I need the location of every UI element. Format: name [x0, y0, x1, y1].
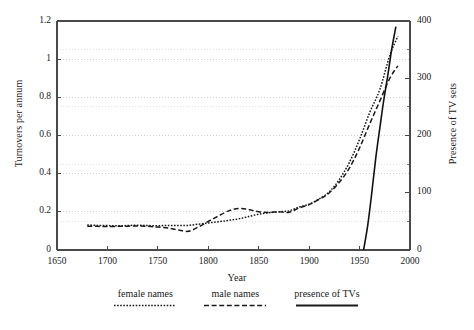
- x-axis-tick-label: 2000: [390, 256, 430, 266]
- x-axis-tick-label: 1900: [289, 256, 329, 266]
- legend-item-female-names[interactable]: female names: [114, 288, 176, 308]
- y-axis-right-tick-label: 0: [417, 244, 447, 254]
- x-axis-tick-label: 1650: [37, 256, 77, 266]
- y-axis-left-tick-label: 1: [25, 53, 51, 63]
- x-axis-title: Year: [0, 272, 474, 283]
- x-axis-tick-label: 1750: [138, 256, 178, 266]
- y-axis-left-title: Turnovers per annum: [13, 54, 24, 194]
- legend-swatch-solid-icon: [296, 303, 358, 308]
- y-axis-left-tick-label: 0.8: [25, 91, 51, 101]
- legend-item-male-names[interactable]: male names: [204, 288, 266, 308]
- y-axis-left-tick-label: 1.2: [25, 15, 51, 25]
- y-axis-left-tick-label: 0.4: [25, 167, 51, 177]
- chart-container: Turnovers per annum Presence of TV sets …: [0, 0, 474, 330]
- y-axis-right-tick-label: 100: [417, 186, 447, 196]
- series-line-male-names: [87, 66, 398, 232]
- x-axis-tick-label: 1950: [340, 256, 380, 266]
- gridlines: [57, 21, 410, 221]
- x-axis-tick-label: 1850: [239, 256, 279, 266]
- y-axis-left-tick-label: 0.2: [25, 205, 51, 215]
- series-line-presence-of-tvs: [364, 27, 396, 250]
- chart-legend: female namesmale namespresence of TVs: [0, 288, 474, 308]
- legend-swatch-dashed-icon: [204, 303, 266, 308]
- y-axis-left-tick-label: 0.6: [25, 129, 51, 139]
- y-axis-right-title: Presence of TV sets: [447, 54, 458, 194]
- x-axis-tick-label: 1800: [188, 256, 228, 266]
- legend-label: male names: [212, 288, 259, 299]
- y-axis-left-tick-label: 0: [25, 244, 51, 254]
- legend-label: presence of TVs: [294, 288, 359, 299]
- y-axis-right-tick-label: 200: [417, 129, 447, 139]
- legend-label: female names: [118, 288, 173, 299]
- legend-item-presence-of-tvs[interactable]: presence of TVs: [294, 288, 359, 308]
- legend-swatch-dotted-icon: [114, 303, 176, 308]
- data-series-layer: [87, 27, 398, 250]
- series-line-female-names: [87, 36, 398, 225]
- y-axis-right-tick-label: 400: [417, 15, 447, 25]
- x-axis-tick-label: 1700: [87, 256, 127, 266]
- y-axis-right-tick-label: 300: [417, 72, 447, 82]
